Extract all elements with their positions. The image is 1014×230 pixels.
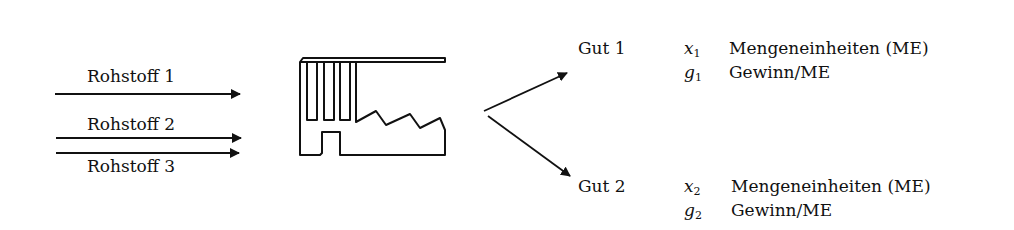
output-label-1: Gut 1 bbox=[578, 38, 626, 58]
output-1-var-g: g1 bbox=[684, 62, 702, 88]
input-label-2: Rohstoff 2 bbox=[87, 114, 175, 134]
output-1-profit-text: Gewinn/ME bbox=[729, 62, 830, 82]
output-2-var-g: g2 bbox=[684, 200, 702, 226]
output-2-profit-text: Gewinn/ME bbox=[731, 200, 832, 220]
input-label-3: Rohstoff 3 bbox=[87, 156, 175, 176]
output-arrow-1 bbox=[484, 73, 567, 111]
output-1-var-x: x1 bbox=[684, 38, 701, 64]
output-1-quantity-text: Mengeneinheiten (ME) bbox=[729, 38, 929, 58]
output-2-var-x: x2 bbox=[684, 176, 701, 202]
output-arrow-2 bbox=[488, 116, 570, 176]
output-2-quantity-text: Mengeneinheiten (ME) bbox=[731, 176, 931, 196]
output-label-2: Gut 2 bbox=[578, 176, 626, 196]
factory-icon bbox=[300, 58, 445, 155]
input-label-1: Rohstoff 1 bbox=[87, 66, 175, 86]
